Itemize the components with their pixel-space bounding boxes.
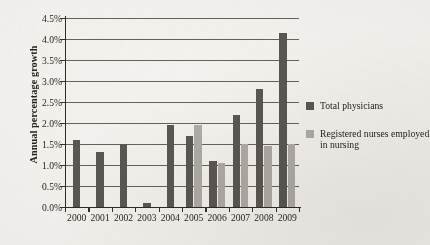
y-tick-label: 1.0%: [26, 160, 62, 171]
bar-registered-2005: [194, 125, 201, 207]
x-tick-mark: [182, 207, 183, 212]
bar-registered-2009: [288, 144, 295, 207]
x-tick-mark: [252, 207, 253, 212]
plot-area: [65, 18, 299, 207]
y-axis-line: [65, 16, 66, 209]
y-tick-label: 4.5%: [26, 13, 62, 24]
legend-item-1: Registered nurses employed in nursing: [306, 128, 430, 151]
y-tick-mark: [60, 144, 65, 145]
x-tick-label-2009: 2009: [270, 212, 304, 223]
bar-total-2000: [73, 140, 80, 207]
y-tick-label: 2.0%: [26, 118, 62, 129]
legend-swatch-icon: [306, 102, 314, 110]
x-tick-mark: [229, 207, 230, 212]
gridline: [65, 18, 299, 19]
y-tick-mark: [60, 60, 65, 61]
bar-total-2009: [279, 33, 286, 207]
y-tick-mark: [60, 39, 65, 40]
bar-total-2007: [233, 115, 240, 207]
chart-figure: Annual percentage growth 0.0%0.5%1.0%1.5…: [0, 0, 430, 245]
y-tick-label: 1.5%: [26, 139, 62, 150]
x-tick-mark: [88, 207, 89, 212]
legend-label: Total physicians: [320, 100, 383, 112]
gridline: [65, 81, 299, 82]
y-tick-mark: [60, 102, 65, 103]
bar-total-2005: [186, 136, 193, 207]
y-tick-label: 4.0%: [26, 34, 62, 45]
legend-label: Registered nurses employed in nursing: [320, 128, 430, 151]
y-tick-label: 2.5%: [26, 97, 62, 108]
bar-total-2002: [120, 144, 127, 207]
bar-total-2008: [256, 89, 263, 207]
bar-registered-2007: [241, 144, 248, 207]
y-axis-tick-labels: 0.0%0.5%1.0%1.5%2.0%2.5%3.0%3.5%4.0%4.5%: [26, 0, 62, 245]
gridline: [65, 123, 299, 124]
y-tick-label: 0.5%: [26, 181, 62, 192]
x-tick-mark: [65, 207, 66, 212]
gridline: [65, 102, 299, 103]
y-tick-mark: [60, 186, 65, 187]
x-axis-tick-labels: 2000200120022003200420052006200720082009: [0, 212, 430, 232]
chart-legend: Total physiciansRegistered nurses employ…: [306, 100, 430, 167]
bar-total-2006: [209, 161, 216, 207]
x-tick-mark: [135, 207, 136, 212]
gridline: [65, 144, 299, 145]
bar-total-2004: [167, 125, 174, 207]
y-tick-mark: [60, 18, 65, 19]
bar-registered-2008: [264, 146, 271, 207]
y-tick-label: 0.0%: [26, 202, 62, 213]
bar-registered-2006: [218, 163, 225, 207]
legend-item-0: Total physicians: [306, 100, 430, 112]
y-tick-label: 3.5%: [26, 55, 62, 66]
y-tick-label: 3.0%: [26, 76, 62, 87]
x-tick-mark: [276, 207, 277, 212]
bar-total-2001: [96, 152, 103, 207]
y-tick-mark: [60, 81, 65, 82]
y-tick-mark: [60, 165, 65, 166]
y-tick-mark: [60, 123, 65, 124]
gridline: [65, 39, 299, 40]
legend-swatch-icon: [306, 130, 314, 138]
x-tick-mark: [159, 207, 160, 212]
x-tick-mark: [205, 207, 206, 212]
x-tick-mark: [299, 207, 300, 212]
gridline: [65, 60, 299, 61]
x-tick-mark: [112, 207, 113, 212]
